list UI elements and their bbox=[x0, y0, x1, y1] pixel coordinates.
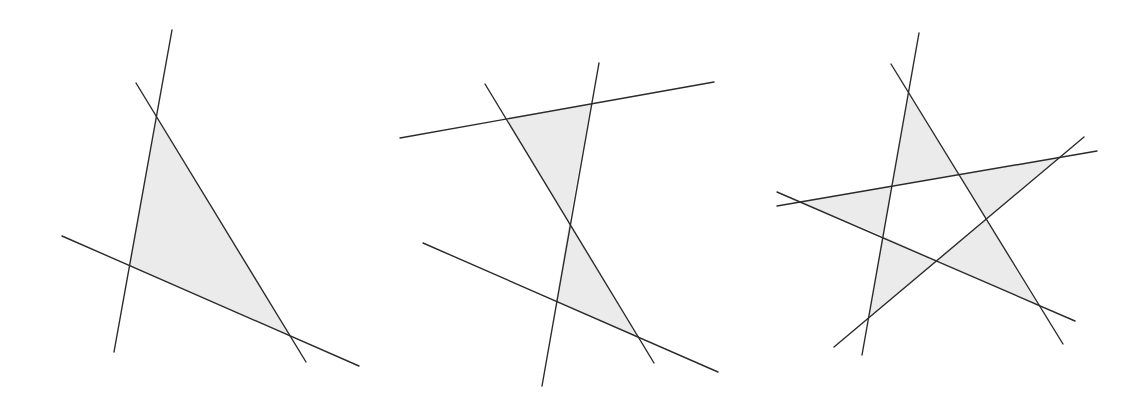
shaded-region bbox=[892, 94, 959, 185]
straight-line bbox=[834, 137, 1084, 347]
shaded-region bbox=[506, 104, 591, 223]
shaded-region bbox=[937, 219, 1038, 306]
figure-three-lines bbox=[62, 30, 359, 366]
figure-five-lines-star bbox=[777, 33, 1097, 355]
straight-line bbox=[777, 192, 1075, 321]
shaded-region bbox=[129, 117, 288, 334]
figure-four-lines bbox=[400, 63, 718, 386]
line-arrangement-diagram bbox=[0, 0, 1148, 408]
shaded-region bbox=[801, 185, 892, 236]
shaded-region bbox=[868, 236, 937, 318]
straight-line bbox=[891, 64, 1063, 344]
